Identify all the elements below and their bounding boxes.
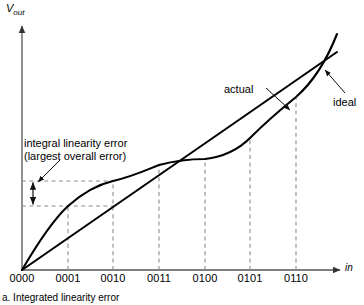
y-axis-label-subscript: out [13,8,24,17]
x-tick-label-0010: 0010 [101,272,126,284]
figure-caption: a. Integrated linearity error [2,292,119,303]
error-leader-line [38,160,60,182]
x-tick-label-0101: 0101 [238,272,263,284]
x-tick-label-0110: 0110 [284,272,308,284]
y-axis-label: Vout [6,2,24,17]
x-tick-label-0011: 0011 [147,272,171,284]
integral-linearity-error-figure: Vout in 0000 0001 0010 0011 0100 0101 01… [0,0,364,305]
error-annotation-line-2: (largest overall error) [24,150,127,163]
integral-linearity-error-annotation: integral linearity error (largest overal… [24,137,127,163]
ideal-line-label: ideal [333,96,356,109]
error-annotation-line-1: integral linearity error [24,137,127,150]
ideal-leader-line [325,70,345,93]
x-axis-label: in [345,262,353,273]
x-tick-label-0000: 0000 [10,272,35,284]
x-tick-label-0001: 0001 [56,272,81,284]
x-tick-label-0100: 0100 [193,272,218,284]
actual-curve-label: actual [224,83,253,96]
